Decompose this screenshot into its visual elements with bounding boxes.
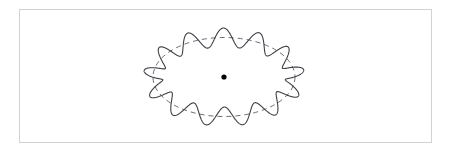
figure-canvas (0, 0, 449, 152)
center-dot (221, 74, 226, 79)
figure-container: Wavy perturbed ellipse with dashed mean … (0, 0, 449, 152)
